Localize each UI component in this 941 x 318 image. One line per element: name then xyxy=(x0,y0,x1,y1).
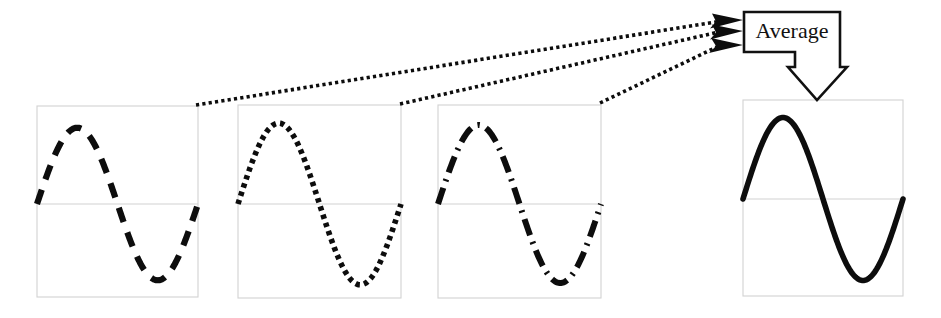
panel-input-signal-3 xyxy=(438,105,601,298)
panel-input-signal-2 xyxy=(238,105,401,298)
average-label: Average xyxy=(756,18,829,43)
average-callout[interactable]: Average xyxy=(744,12,847,100)
signal-averaging-diagram: Average xyxy=(0,0,941,318)
leader-arrow-panel-1 xyxy=(196,14,743,106)
figure-canvas: Average xyxy=(0,0,941,318)
panel-averaged-output-signal xyxy=(743,100,903,296)
leader-arrows-group xyxy=(196,14,743,106)
leader-arrow-panel-3 xyxy=(600,38,743,103)
leader-arrowhead-3 xyxy=(709,38,743,53)
panel-input-signal-1 xyxy=(37,106,198,297)
leader-line-3 xyxy=(600,46,719,103)
